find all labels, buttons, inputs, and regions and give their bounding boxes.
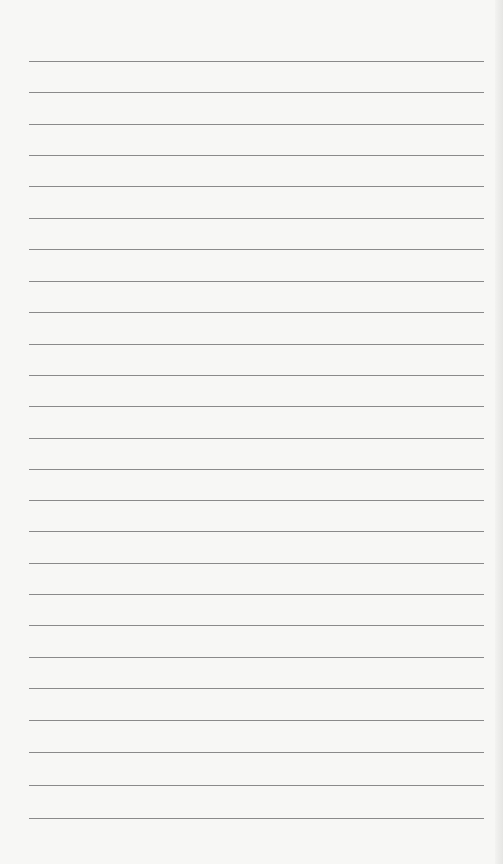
ruled-line [29,531,484,532]
ruled-line [29,657,484,658]
ruled-line [29,61,484,62]
ruled-line [29,500,484,501]
ruled-line [29,218,484,219]
ruled-line [29,281,484,282]
ruled-line [29,186,484,187]
ruled-line [29,594,484,595]
ruled-line [29,720,484,721]
ruled-line [29,785,484,786]
ruled-line [29,312,484,313]
ruled-line [29,563,484,564]
ruled-line [29,438,484,439]
ruled-line [29,469,484,470]
ruled-line [29,344,484,345]
ruled-line [29,625,484,626]
page-edge [495,0,503,864]
ruled-line [29,375,484,376]
ruled-line [29,92,484,93]
ruled-line [29,155,484,156]
ruled-line [29,818,484,819]
ruled-line [29,688,484,689]
ruled-line [29,406,484,407]
ruled-line [29,249,484,250]
ruled-line [29,752,484,753]
ruled-line [29,124,484,125]
